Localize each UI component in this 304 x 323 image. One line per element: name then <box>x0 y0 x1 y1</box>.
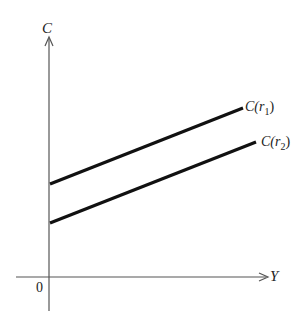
line-c-r2 <box>50 142 256 223</box>
y-axis-label: Y <box>270 269 278 284</box>
line-c-r1 <box>50 108 243 184</box>
label-c-r1-end: ) <box>269 99 274 114</box>
label-c-r2-end: ) <box>285 134 290 149</box>
label-c-r2-base: C(r <box>261 134 280 149</box>
c-axis-label: C <box>42 21 52 36</box>
diagram-canvas <box>0 0 304 323</box>
label-c-r2: C(r2) <box>261 135 290 152</box>
label-c-r1: C(r1) <box>245 100 274 117</box>
origin-label: 0 <box>36 281 43 295</box>
label-c-r1-base: C(r <box>245 99 264 114</box>
